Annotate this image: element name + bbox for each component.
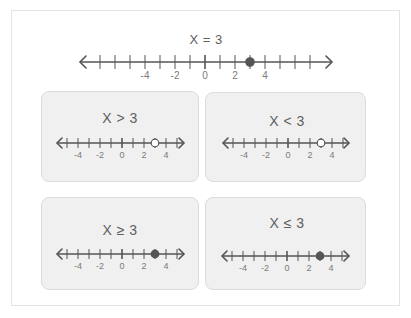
closed-point-icon [316, 252, 324, 260]
tick-label: 0 [284, 263, 289, 273]
tick-label: 4 [328, 263, 333, 273]
card-less-equal-number-line: -4-2024 [0, 0, 411, 318]
tick-label: 2 [306, 263, 311, 273]
number-line-group: -4-2024 [222, 251, 349, 273]
tick-label: -4 [239, 263, 247, 273]
tick-label: -2 [261, 263, 269, 273]
